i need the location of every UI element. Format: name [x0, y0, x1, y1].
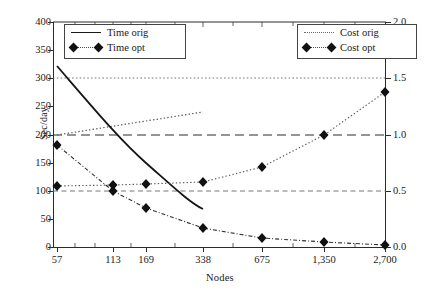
series-cost-opt-markers: [53, 87, 390, 191]
legend-label-cost-opt: Cost opt: [340, 42, 375, 53]
bottom-minor-ticks: [75, 243, 355, 247]
legend-item-cost-orig[interactable]: Cost orig: [298, 25, 416, 40]
legend-key-dashdot-diamond: [70, 41, 102, 54]
legend-item-time-orig[interactable]: Time orig: [65, 25, 185, 40]
series-time-opt-markers: [53, 140, 390, 250]
series-time-opt-line: [57, 145, 385, 245]
legend-item-cost-opt[interactable]: Cost opt: [298, 40, 416, 55]
series-cost-opt-line: [57, 92, 385, 186]
legend-right: Cost orig Cost opt: [297, 24, 417, 59]
legend-label-time-orig: Time orig: [107, 27, 148, 38]
series-cost-orig: [57, 112, 203, 135]
legend-item-time-opt[interactable]: Time opt: [65, 40, 185, 55]
series-time-orig: [57, 66, 203, 209]
legend-key-dashdot-diamond-2: [303, 41, 335, 54]
legend-key-dotted-line: [303, 26, 335, 39]
legend-label-cost-orig: Cost orig: [340, 27, 379, 38]
legend-key-solid-line: [70, 26, 102, 39]
legend-label-time-opt: Time opt: [107, 42, 145, 53]
chart-figure: { "chart_data": { "type": "line", "title…: [0, 0, 440, 294]
legend-left: Time orig Time opt: [64, 24, 186, 59]
